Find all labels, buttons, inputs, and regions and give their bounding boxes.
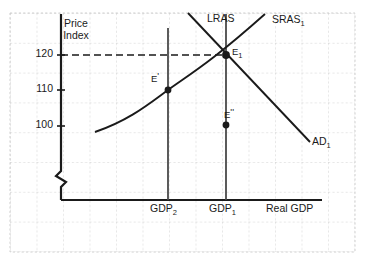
x-axis-title: Real GDP — [266, 203, 313, 214]
e-prime-label-mark: ' — [157, 70, 159, 81]
ad1-label: AD1 — [312, 136, 331, 147]
e-double-prime-label: E'' — [224, 110, 234, 120]
sras1-label-subscript: 1 — [301, 19, 305, 28]
ad1-label-subscript: 1 — [327, 141, 331, 150]
y-tick-label-120: 120 — [20, 48, 53, 59]
x-label-gdp2: GDP2 — [150, 203, 177, 214]
x-label-gdp1: GDP1 — [209, 203, 236, 214]
as-ad-diagram: Price Index 120 110 100 LRAS SRAS1 AD1 E… — [0, 0, 371, 266]
sras1-label: SRAS1 — [272, 14, 305, 25]
x-label-gdp2-subscript: 2 — [173, 208, 177, 217]
point-marker-e-prime — [165, 87, 172, 94]
e-double-prime-label-mark: '' — [230, 106, 234, 117]
point-marker-e-double-prime — [223, 122, 230, 129]
y-axis-title-line1: Price — [50, 18, 102, 29]
y-tick-label-110: 110 — [20, 83, 53, 94]
lras-label: LRAS — [207, 13, 234, 24]
y-axis-title-line2: Index — [50, 30, 102, 41]
e-prime-label: E' — [151, 74, 159, 84]
y-tick-label-100: 100 — [20, 119, 53, 130]
ad1-label-text: AD — [312, 135, 327, 147]
e-one-label: E1 — [232, 47, 243, 57]
x-label-gdp1-text: GDP — [209, 202, 232, 214]
x-label-gdp2-text: GDP — [150, 202, 173, 214]
sras1-label-text: SRAS — [272, 13, 301, 25]
e-one-label-subscript: 1 — [238, 51, 242, 60]
point-marker-e-one — [222, 51, 230, 59]
x-label-gdp1-subscript: 1 — [232, 208, 236, 217]
